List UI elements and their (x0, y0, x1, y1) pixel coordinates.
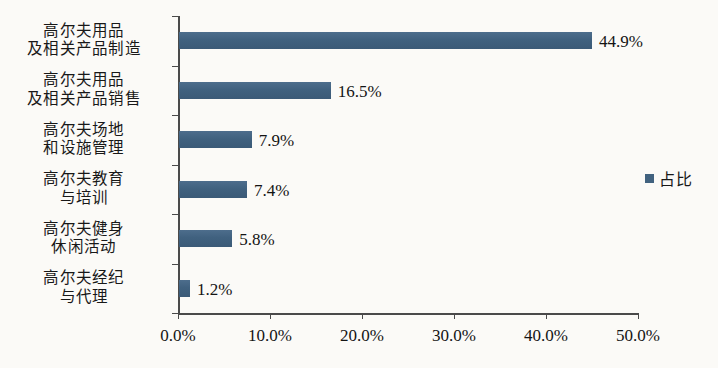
legend-label: 占比 (659, 166, 692, 190)
category-label: 高尔夫用品 及相关产品销售 (0, 71, 168, 108)
x-tick-label: 0.0% (160, 326, 195, 346)
legend: 占比 (645, 166, 692, 190)
bar-value-label: 7.4% (254, 182, 289, 199)
bar-value-label: 16.5% (338, 83, 382, 100)
plot-area: 44.9%16.5%7.9%7.4%5.8%1.2% 0.0%10.0%20.0… (178, 16, 638, 313)
bar-chart: 高尔夫用品 及相关产品制造 高尔夫用品 及相关产品销售 高尔夫场地 和设施管理 … (0, 0, 718, 368)
y-tick (172, 115, 178, 116)
bar (179, 82, 331, 99)
category-label: 高尔夫教育 与培训 (0, 170, 168, 207)
y-tick (172, 214, 178, 215)
x-tick (546, 313, 547, 319)
x-tick-label: 40.0% (524, 326, 568, 346)
category-axis-labels: 高尔夫用品 及相关产品制造 高尔夫用品 及相关产品销售 高尔夫场地 和设施管理 … (0, 16, 172, 313)
bar (179, 280, 190, 297)
x-tick-label: 20.0% (340, 326, 384, 346)
category-label: 高尔夫经纪 与代理 (0, 269, 168, 306)
x-tick-label: 10.0% (248, 326, 292, 346)
bar-value-label: 44.9% (599, 33, 643, 50)
y-tick (172, 16, 178, 17)
bar-value-label: 1.2% (197, 281, 232, 298)
y-axis-line (178, 16, 180, 313)
y-tick (172, 165, 178, 166)
bar (179, 230, 232, 247)
y-tick (172, 264, 178, 265)
x-tick (362, 313, 363, 319)
x-tick-label: 50.0% (616, 326, 660, 346)
x-tick (178, 313, 179, 319)
bar (179, 131, 252, 148)
legend-swatch-icon (645, 174, 654, 183)
bar-value-label: 5.8% (239, 231, 274, 248)
x-axis-line (178, 313, 638, 315)
bar-value-label: 7.9% (259, 132, 294, 149)
bar (179, 32, 592, 49)
category-label: 高尔夫健身 休闲活动 (0, 220, 168, 257)
bar (179, 181, 247, 198)
y-tick (172, 66, 178, 67)
x-tick (270, 313, 271, 319)
x-tick-label: 30.0% (432, 326, 476, 346)
category-label: 高尔夫用品 及相关产品制造 (0, 22, 168, 59)
x-tick (638, 313, 639, 319)
category-label: 高尔夫场地 和设施管理 (0, 121, 168, 158)
x-tick (454, 313, 455, 319)
